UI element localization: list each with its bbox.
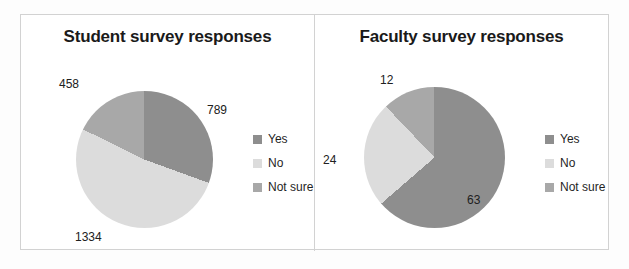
chart-faculty-survey: Faculty survey responses 12 24 63 Yes No… <box>315 15 608 251</box>
legend-label-not-sure: Not sure <box>268 180 313 194</box>
data-label-yes: 63 <box>467 193 480 207</box>
data-label-no: 1334 <box>75 230 102 244</box>
legend-swatch-no-icon <box>545 159 554 168</box>
chart-student-survey: Student survey responses 458 789 1334 Ye… <box>21 15 314 251</box>
data-label-no: 24 <box>323 153 336 167</box>
legend-label-yes: Yes <box>268 132 288 146</box>
legend-item-yes[interactable]: Yes <box>545 127 605 151</box>
legend-swatch-yes-icon <box>545 135 554 144</box>
page-title: Student survey responses <box>21 27 314 47</box>
pie-chart-faculty <box>364 87 505 228</box>
legend-item-no[interactable]: No <box>253 151 313 175</box>
legend-label-not-sure: Not sure <box>560 180 605 194</box>
legend-label-no: No <box>560 156 575 170</box>
legend-swatch-no-icon <box>253 159 262 168</box>
pie-chart-student <box>76 91 213 228</box>
legend-swatch-not-sure-icon <box>545 183 554 192</box>
legend-student: Yes No Not sure <box>253 127 313 199</box>
legend-item-no[interactable]: No <box>545 151 605 175</box>
figure-canvas: Student survey responses 458 789 1334 Ye… <box>0 0 629 269</box>
legend-label-no: No <box>268 156 283 170</box>
legend-faculty: Yes No Not sure <box>545 127 605 199</box>
legend-item-not-sure[interactable]: Not sure <box>253 175 313 199</box>
data-label-not-sure: 458 <box>59 77 79 91</box>
legend-swatch-not-sure-icon <box>253 183 262 192</box>
legend-item-yes[interactable]: Yes <box>253 127 313 151</box>
legend-label-yes: Yes <box>560 132 580 146</box>
data-label-yes: 789 <box>207 103 227 117</box>
data-label-not-sure: 12 <box>380 73 393 87</box>
legend-swatch-yes-icon <box>253 135 262 144</box>
charts-panel: Student survey responses 458 789 1334 Ye… <box>20 14 609 250</box>
legend-item-not-sure[interactable]: Not sure <box>545 175 605 199</box>
page-title: Faculty survey responses <box>315 27 608 47</box>
